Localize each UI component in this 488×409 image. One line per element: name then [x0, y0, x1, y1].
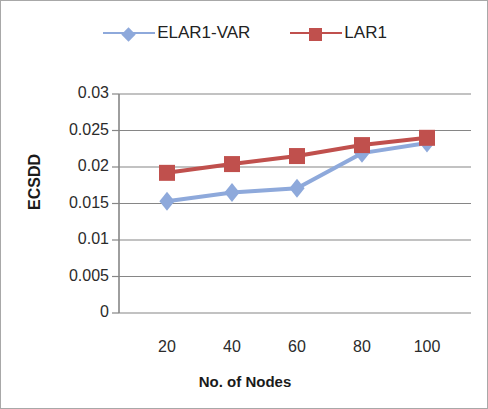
data-point-lar1-40	[224, 156, 240, 172]
x-tick-label-80: 80	[332, 338, 392, 356]
x-tick-label-20: 20	[137, 338, 197, 356]
data-point-elar1-var-60	[289, 179, 304, 198]
x-axis-tick-labels: 20406080100	[1, 338, 488, 362]
data-point-lar1-80	[354, 137, 370, 153]
x-axis-title: No. of Nodes	[1, 373, 488, 390]
x-tick-label-60: 60	[267, 338, 327, 356]
data-point-lar1-60	[289, 148, 305, 164]
x-tick-label-100: 100	[397, 338, 457, 356]
data-point-lar1-20	[159, 165, 175, 181]
plot-area: ECSDD 00.0050.010.0150.020.0250.03 20406…	[1, 1, 488, 409]
chart-screenshot: ELAR1-VAR LAR1 ECSDD 00.0050.010.0150.02…	[0, 0, 488, 409]
data-point-elar1-var-40	[224, 183, 239, 202]
data-point-elar1-var-20	[159, 192, 174, 211]
x-tick-label-40: 40	[202, 338, 262, 356]
data-point-lar1-100	[419, 130, 435, 146]
